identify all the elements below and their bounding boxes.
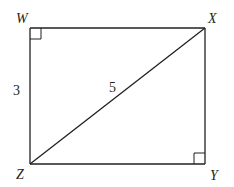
length-label-wz: 3 [13,83,20,98]
measurement-labels: 3 5 [13,80,116,98]
length-label-zx: 5 [109,80,116,95]
vertex-labels: W X Z Y [16,11,220,183]
vertex-label-x: X [207,11,217,26]
rectangle-diagram: W X Z Y 3 5 [0,0,234,187]
vertex-label-y: Y [210,168,220,183]
rectangle-wxyz [30,28,205,164]
right-angle-mark-y [194,153,205,164]
right-angle-mark-w [30,28,41,39]
vertex-label-w: W [16,11,29,26]
vertex-label-z: Z [16,167,24,182]
diagonal-zx [30,28,205,164]
